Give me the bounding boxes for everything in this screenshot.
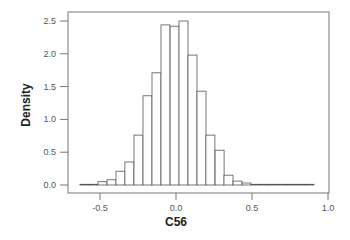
histogram-bar [107, 180, 116, 185]
y-axis: 0.00.51.01.52.02.5 [43, 16, 68, 190]
x-axis-title: C56 [165, 215, 187, 229]
y-tick-label: 1.5 [43, 82, 56, 92]
y-tick-label: 2.5 [43, 16, 56, 26]
histogram-bar [125, 162, 134, 185]
histogram-bar [233, 181, 242, 185]
histogram-bar [152, 73, 161, 185]
histogram-bar [161, 25, 170, 185]
histogram-bar [278, 184, 287, 185]
y-tick-label: 0.5 [43, 147, 56, 157]
histogram-bar [251, 184, 260, 185]
y-tick-label: 1.0 [43, 114, 56, 124]
histogram-bars [80, 21, 314, 185]
x-tick-label: -0.5 [92, 203, 108, 213]
histogram-bar [287, 184, 296, 185]
y-tick-label: 0.0 [43, 180, 56, 190]
x-axis: -0.50.00.51.0 [92, 193, 334, 213]
x-tick-label: 0.0 [170, 203, 183, 213]
histogram-bar [215, 150, 224, 185]
histogram-bar [80, 184, 89, 185]
histogram-bar [89, 184, 98, 185]
histogram-bar [242, 183, 251, 185]
x-tick-label: 0.5 [246, 203, 259, 213]
histogram-bar [269, 184, 278, 185]
histogram-bar [197, 91, 206, 185]
histogram-bar [98, 182, 107, 185]
histogram-bar [179, 21, 188, 185]
y-axis-title: Density [19, 83, 33, 127]
histogram-bar [143, 96, 152, 185]
histogram-bar [206, 135, 215, 185]
histogram-bar [260, 184, 269, 185]
histogram-bar [170, 26, 179, 185]
histogram-bar [224, 175, 233, 185]
x-tick-label: 1.0 [322, 203, 335, 213]
histogram-bar [305, 184, 314, 185]
histogram-bar [116, 171, 125, 185]
y-tick-label: 2.0 [43, 49, 56, 59]
histogram-bar [188, 55, 197, 185]
histogram-bar [134, 135, 143, 185]
histogram-bar [296, 184, 305, 185]
histogram-chart: 0.00.51.01.52.02.5 -0.50.00.51.0 Density… [0, 0, 350, 240]
